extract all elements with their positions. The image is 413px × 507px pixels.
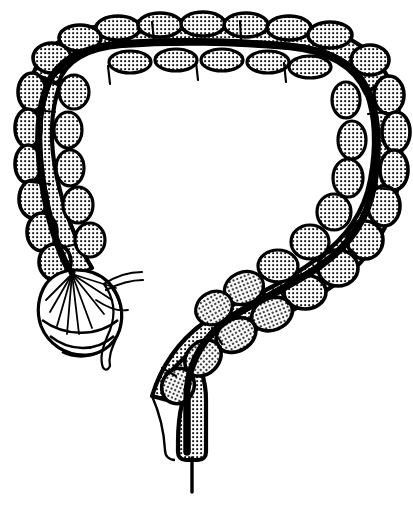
illustration-canvas: Large intestine (colon) anatomical line … bbox=[0, 0, 413, 507]
large-intestine-illustration: Large intestine (colon) anatomical line … bbox=[0, 0, 413, 507]
